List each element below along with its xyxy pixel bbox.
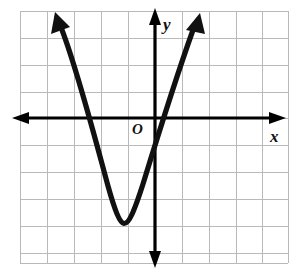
origin-label: O bbox=[132, 121, 143, 137]
coordinate-plane-svg: y x O bbox=[0, 0, 297, 275]
y-axis-arrow-down bbox=[149, 251, 161, 268]
x-axis-arrow-right bbox=[269, 112, 286, 124]
parabola-graph-figure: y x O bbox=[0, 0, 297, 275]
parabola-arrow-right-branch bbox=[186, 13, 205, 34]
y-axis-label: y bbox=[161, 15, 171, 34]
x-axis-label: x bbox=[269, 127, 279, 146]
x-axis bbox=[12, 112, 286, 124]
